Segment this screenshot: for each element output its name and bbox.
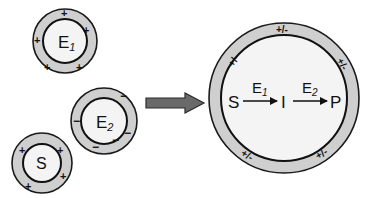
charge-plus-icon: +: [83, 24, 89, 36]
charge-mixed-icon: +/-: [276, 24, 288, 35]
charge-minus-icon: −: [124, 126, 131, 140]
charge-minus-icon: −: [92, 140, 99, 154]
charge-plus-icon: +: [19, 144, 25, 156]
compartment: +/- +/- +/- +/- +/- S E1 I E2 P: [209, 23, 359, 173]
intermediate-label: I: [281, 93, 286, 112]
particle-e1: E1 + + + + +: [33, 7, 97, 73]
s-label: S: [36, 155, 47, 172]
charge-minus-icon: −: [120, 89, 127, 103]
charge-plus-icon: +: [76, 61, 82, 73]
charge-plus-icon: +: [34, 34, 40, 46]
charge-minus-icon: −: [112, 133, 119, 147]
charge-plus-icon: +: [60, 170, 66, 182]
charge-minus-icon: −: [73, 114, 80, 128]
substrate-label: S: [228, 93, 239, 112]
charge-plus-icon: +: [44, 61, 50, 73]
diagram-canvas: E1 + + + + + E2 − − − − − S + + + +: [0, 0, 370, 198]
particle-s: S + + + +: [12, 133, 72, 193]
block-arrow-right-icon: [146, 93, 204, 113]
charge-plus-icon: +: [25, 180, 31, 192]
particle-e2: E2 − − − − −: [71, 88, 137, 154]
charge-plus-icon: +: [61, 7, 67, 19]
charge-plus-icon: +: [57, 144, 63, 156]
product-label: P: [330, 93, 341, 112]
